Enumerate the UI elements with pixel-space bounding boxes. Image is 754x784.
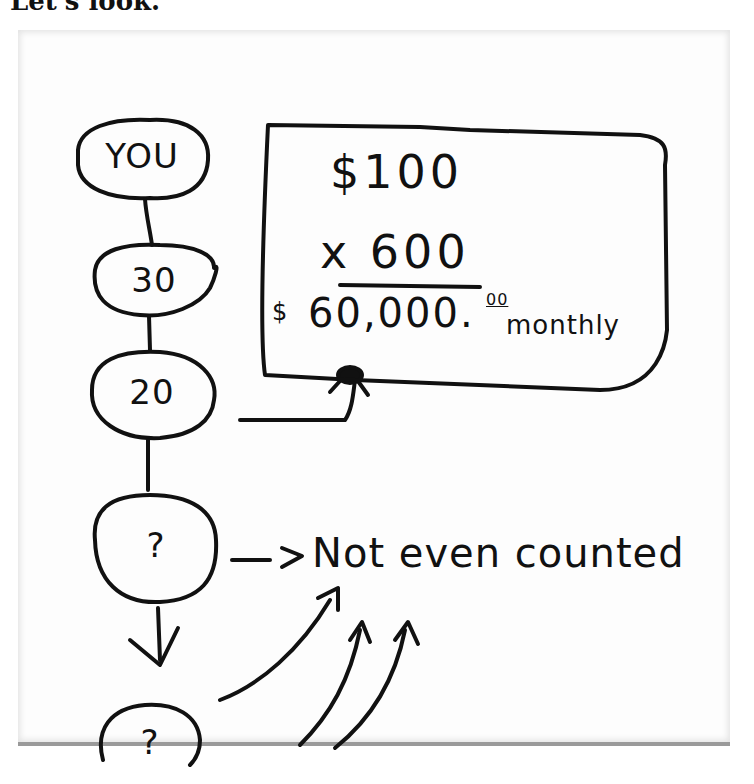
node-you-label: YOU: [82, 136, 202, 176]
edge-q1-q2: [158, 608, 160, 660]
node-q1-label: ?: [96, 525, 216, 565]
calc-currency: $: [272, 298, 288, 326]
calc-line-2: x 600: [320, 225, 470, 279]
node-20-label: 20: [92, 372, 212, 412]
edge-q2-note-3: [335, 630, 405, 748]
calc-underline: [340, 285, 480, 287]
edge-30-20: [149, 316, 150, 350]
edge-q2-note-1: [220, 600, 330, 700]
calc-period: monthly: [506, 310, 620, 340]
edge-you-30: [145, 199, 152, 245]
edge-q2-note-2: [300, 630, 360, 745]
calc-line-1: $100: [330, 145, 463, 199]
calc-cents: 00: [486, 290, 508, 309]
note-not-even-counted: Not even counted: [312, 530, 685, 576]
node-q2-label: ?: [90, 722, 210, 762]
node-30-label: 30: [94, 260, 214, 300]
calc-result: 60,000.: [308, 290, 475, 336]
